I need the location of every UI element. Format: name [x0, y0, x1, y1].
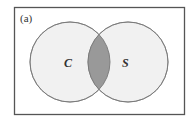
venn-diagram: (a) C S — [0, 0, 191, 121]
set-s-label: S — [122, 56, 129, 70]
panel-label: (a) — [20, 12, 33, 25]
set-c-label: C — [64, 56, 73, 70]
